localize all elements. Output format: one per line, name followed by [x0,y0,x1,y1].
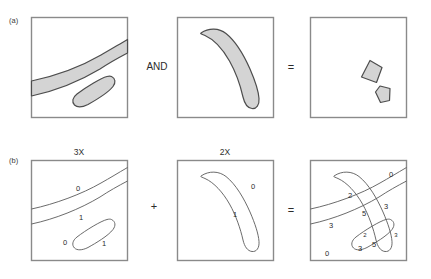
panel-b2-title: 2X [220,147,231,157]
row-b-label: (b) [9,156,19,165]
panel-a-operand-1 [32,18,128,118]
region-value-b3-4: 3 [329,221,333,230]
panel-b1-title: 3X [74,147,85,157]
panel-b-operand-2: 0 1 [178,161,274,261]
region-value-b3-1: 2 [348,191,352,200]
region-value-b3-7: 5 [372,240,376,249]
region-value-b1-3: 1 [102,239,106,248]
region-value-b2-0: 0 [251,182,255,191]
row-a-operator-equals: = [288,61,294,73]
region-value-b3-8: 3 [358,244,362,253]
row-b-operator-plus: + [151,200,157,212]
region-value-b1-1: 1 [79,213,83,222]
region-value-b1-0: 0 [76,184,80,193]
row-a-label: (a) [9,16,19,25]
region-value-b3-2: 3 [384,202,388,211]
row-a-group: (a) AND = [9,16,407,118]
region-value-b3-3: 5 [362,209,366,218]
region-value-b3-9: 0 [325,249,329,258]
panel-a-result [311,18,407,118]
figure-svg: (a) AND = [0,0,431,279]
row-a-operator-and: AND [146,61,167,72]
region-value-b1-2: 0 [63,238,67,247]
region-value-b2-1: 1 [233,210,237,219]
region-value-b3-0: 0 [389,170,393,179]
panel-a-operand-2 [178,18,274,118]
row-b-group: (b) 3X 0 1 0 1 + 2X 0 [9,147,407,261]
figure-container: (a) AND = [0,0,431,279]
panel-b-result: 0 2 3 5 3 2 3 5 3 0 [311,161,407,261]
panel-b-operand-1: 0 1 0 1 [32,161,128,261]
panel-a3-frame [311,18,407,118]
row-b-operator-equals: = [288,204,294,216]
